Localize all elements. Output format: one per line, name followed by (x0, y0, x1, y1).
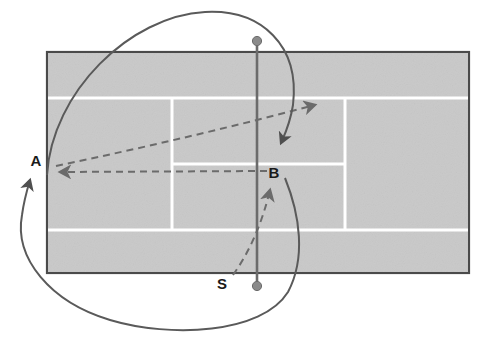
tennis-court-diagram: A B S (0, 0, 491, 342)
label-s: S (217, 275, 227, 292)
net-post-top (252, 36, 261, 45)
net-post-bottom (252, 281, 261, 290)
label-a: A (31, 152, 42, 169)
label-b: B (269, 164, 280, 181)
diagram-canvas: A B S (0, 0, 491, 342)
